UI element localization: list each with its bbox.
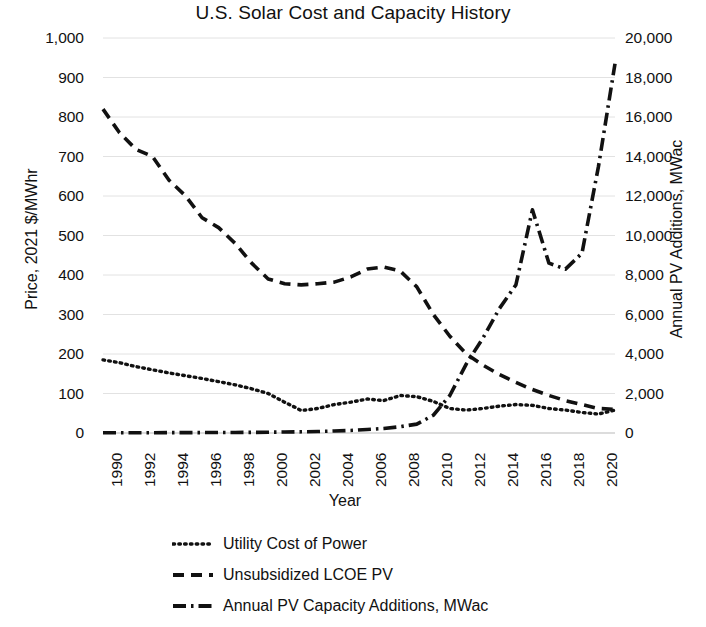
chart-legend: Utility Cost of PowerUnsubsidized LCOE P… [0, 528, 706, 621]
legend-item[interactable]: Utility Cost of Power [0, 528, 706, 559]
legend-label: Unsubsidized LCOE PV [223, 566, 393, 584]
legend-item[interactable]: Unsubsidized LCOE PV [0, 559, 706, 590]
solar-cost-capacity-chart: U.S. Solar Cost and Capacity History Pri… [0, 0, 706, 627]
legend-swatch-dash-dot [172, 599, 214, 613]
legend-swatch-dotted [172, 537, 214, 551]
legend-label: Annual PV Capacity Additions, MWac [223, 597, 488, 615]
legend-label: Utility Cost of Power [223, 535, 367, 553]
series-line [103, 109, 615, 409]
legend-item[interactable]: Annual PV Capacity Additions, MWac [0, 590, 706, 621]
series-line [103, 64, 615, 433]
series-line [103, 360, 615, 414]
legend-swatch-dashed [172, 568, 214, 582]
